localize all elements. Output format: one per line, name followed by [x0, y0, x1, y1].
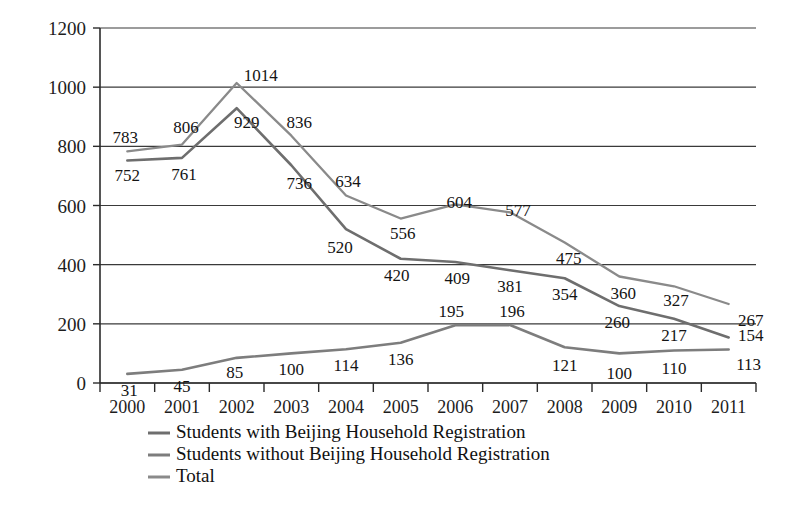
- data-label: 475: [556, 249, 582, 268]
- y-axis-tick-label: 800: [58, 136, 87, 157]
- data-label: 752: [115, 166, 141, 185]
- data-label: 195: [439, 302, 465, 321]
- data-label: 121: [552, 356, 578, 375]
- x-axis-tick-label: 2002: [219, 397, 255, 417]
- data-label: 836: [287, 113, 313, 132]
- x-axis-tick-label: 2001: [164, 397, 200, 417]
- data-label: 113: [736, 355, 761, 374]
- data-label: 736: [287, 174, 313, 193]
- data-label: 260: [605, 313, 631, 332]
- y-axis-tick-label: 600: [58, 196, 87, 217]
- line-chart: 020040060080010001200 200020012002200320…: [0, 0, 802, 530]
- data-label: 761: [171, 165, 197, 184]
- data-label: 409: [445, 269, 471, 288]
- data-label: 783: [113, 128, 139, 147]
- data-label: 577: [505, 201, 531, 220]
- data-label: 806: [173, 118, 199, 137]
- data-label: 217: [661, 326, 687, 345]
- data-label: 360: [611, 284, 637, 303]
- legend-item-label: Total: [176, 465, 215, 486]
- data-label: 136: [388, 350, 414, 369]
- data-label: 420: [384, 266, 410, 285]
- data-label: 634: [335, 172, 361, 191]
- data-label: 604: [447, 193, 473, 212]
- x-axis-tick-label: 2011: [711, 397, 746, 417]
- series-line: [127, 325, 728, 374]
- y-axis-tick-label: 1200: [48, 18, 86, 39]
- chart-legend[interactable]: Students with Beijing Household Registra…: [148, 421, 550, 486]
- data-label: 45: [174, 377, 191, 396]
- legend-item-label: Students without Beijing Household Regis…: [176, 443, 550, 464]
- y-axis-tick-label: 1000: [48, 77, 86, 98]
- data-label: 114: [334, 356, 359, 375]
- x-axis-tick-label: 2009: [601, 397, 637, 417]
- y-axis-tick-label: 200: [58, 314, 87, 335]
- legend-item[interactable]: Total: [148, 465, 215, 486]
- data-label: 85: [226, 363, 243, 382]
- data-label: 1014: [244, 66, 279, 85]
- y-axis-tick-label: 0: [77, 373, 87, 394]
- y-axis-tick-labels: 020040060080010001200: [48, 18, 86, 394]
- x-axis-tick-label: 2003: [273, 397, 309, 417]
- x-axis-tick-label: 2004: [328, 397, 364, 417]
- x-axis-tick-labels: 2000200120022003200420052006200720082009…: [109, 397, 746, 417]
- data-label: 354: [552, 285, 578, 304]
- data-label: 556: [390, 224, 416, 243]
- series-line: [127, 83, 728, 304]
- data-label: 267: [738, 311, 764, 330]
- legend-item[interactable]: Students with Beijing Household Registra…: [148, 421, 526, 442]
- data-label: 381: [497, 277, 523, 296]
- legend-item[interactable]: Students without Beijing Household Regis…: [148, 443, 550, 464]
- x-axis-tick-label: 2006: [437, 397, 473, 417]
- series-line: [127, 108, 728, 337]
- data-label: 100: [279, 360, 305, 379]
- y-axis-tick-label: 400: [58, 255, 87, 276]
- series-lines: [127, 83, 728, 374]
- x-axis-tick-label: 2007: [492, 397, 528, 417]
- x-axis-tick-label: 2008: [547, 397, 583, 417]
- x-axis-tick-label: 2000: [109, 397, 145, 417]
- x-axis-tick-label: 2005: [383, 397, 419, 417]
- data-label: 520: [327, 238, 353, 257]
- data-label: 31: [121, 381, 138, 400]
- data-label: 327: [663, 291, 689, 310]
- chart-axes: [93, 28, 756, 392]
- gridlines: [100, 28, 756, 383]
- x-axis-tick-label: 2010: [656, 397, 692, 417]
- legend-item-label: Students with Beijing Household Registra…: [176, 421, 526, 442]
- data-label: 100: [607, 364, 633, 383]
- data-label: 929: [234, 113, 260, 132]
- chart-canvas: 020040060080010001200 200020012002200320…: [0, 0, 802, 530]
- data-label: 110: [662, 359, 687, 378]
- data-label: 196: [499, 302, 525, 321]
